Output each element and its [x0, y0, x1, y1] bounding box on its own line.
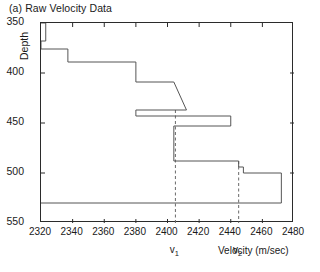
velocity-marker-lines — [175, 110, 238, 223]
plot-area — [40, 22, 293, 222]
velocity-marker-v2: v2 — [226, 244, 250, 260]
figure-panel: (a) Raw Velocity Data Depth Velocity (m/… — [0, 0, 320, 272]
y-tick-label: 400 — [0, 66, 24, 77]
y-tick-label: 350 — [0, 16, 24, 27]
x-axis-ticks — [73, 23, 263, 223]
x-tick-label: 2480 — [273, 226, 313, 237]
panel-title: (a) Raw Velocity Data — [9, 1, 112, 15]
velocity-depth-plot — [41, 23, 294, 223]
velocity-marker-v1: v1 — [162, 244, 186, 260]
y-axis-ticks — [41, 73, 294, 173]
velocity-marker-symbol: v2 — [233, 244, 242, 255]
y-tick-label: 500 — [0, 166, 24, 177]
velocity-marker-symbol: v1 — [170, 244, 179, 255]
y-tick-label: 450 — [0, 116, 24, 127]
velocity-log-line — [41, 23, 281, 203]
